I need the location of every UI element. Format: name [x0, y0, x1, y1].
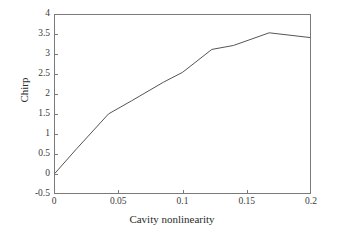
y-tick-label: 3.5	[38, 29, 50, 39]
y-tick-label: 1	[45, 129, 50, 139]
y-tick-label: 2.5	[38, 69, 50, 79]
y-tick-mark	[54, 114, 58, 115]
y-tick-mark	[54, 34, 58, 35]
x-tick-label: 0.05	[110, 197, 127, 207]
x-tick-mark	[247, 190, 248, 194]
data-line-svg	[55, 15, 310, 193]
y-tick-label: 0.5	[38, 149, 50, 159]
y-axis-title: Chirp	[18, 60, 30, 120]
y-tick-mark	[54, 54, 58, 55]
x-tick-mark	[183, 190, 184, 194]
x-tick-label: 0.15	[238, 197, 255, 207]
plot-area	[54, 14, 311, 194]
x-axis-tick-labels: 00.050.10.150.2	[0, 197, 344, 213]
x-tick-label: 0.2	[305, 197, 317, 207]
y-tick-label: 1.5	[38, 109, 50, 119]
x-tick-label: 0.1	[177, 197, 189, 207]
y-tick-mark	[54, 154, 58, 155]
y-tick-label: 2	[45, 89, 50, 99]
chart-figure: -0.500.511.522.533.54 00.050.10.150.2 Ca…	[0, 0, 344, 236]
y-tick-mark	[54, 94, 58, 95]
x-axis-title: Cavity nonlinearity	[0, 213, 344, 225]
y-tick-label: 0	[45, 169, 50, 179]
y-tick-label: 3	[45, 49, 50, 59]
x-tick-mark	[118, 190, 119, 194]
y-tick-mark	[54, 74, 58, 75]
y-tick-label: 4	[45, 9, 50, 19]
x-tick-label: 0	[52, 197, 57, 207]
chirp-series-line	[55, 33, 310, 173]
y-tick-mark	[54, 134, 58, 135]
y-tick-mark	[54, 174, 58, 175]
